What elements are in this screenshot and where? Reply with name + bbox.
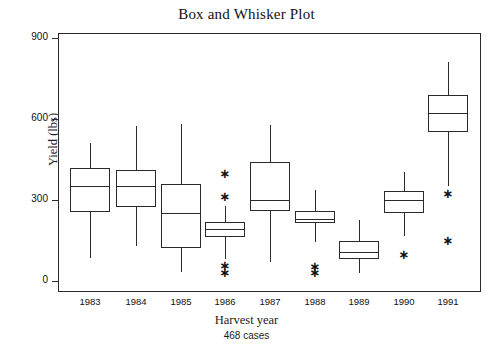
- whisker-lower: [181, 248, 182, 272]
- y-tick-label: 0: [42, 274, 48, 285]
- cases-count-label: 468 cases: [0, 330, 493, 341]
- outlier-marker: ∗: [443, 186, 454, 199]
- outlier-marker: ∗: [310, 266, 321, 279]
- y-tick-mark: [52, 38, 58, 39]
- whisker-lower: [90, 212, 91, 258]
- x-tick-label-1991: 1991: [437, 296, 458, 307]
- x-tick-label-1984: 1984: [125, 296, 146, 307]
- median-line: [70, 186, 110, 187]
- whisker-lower: [359, 259, 360, 273]
- whisker-upper: [315, 190, 316, 211]
- whisker-lower: [225, 237, 226, 259]
- y-tick-mark: [52, 200, 58, 201]
- median-line: [116, 186, 156, 187]
- outlier-marker: ∗: [399, 248, 410, 261]
- box-whisker-chart: Box and Whisker Plot Yield (lbs) 0300600…: [0, 0, 493, 353]
- y-tick-mark: [52, 119, 58, 120]
- whisker-lower: [136, 207, 137, 246]
- x-tick-label-1983: 1983: [79, 296, 100, 307]
- outlier-marker: ∗: [220, 266, 231, 279]
- whisker-lower: [448, 132, 449, 186]
- y-tick-label: 300: [31, 193, 48, 204]
- box-iqr-rect: [384, 191, 424, 213]
- median-line: [339, 252, 379, 253]
- median-line: [428, 113, 468, 114]
- median-line: [250, 200, 290, 201]
- x-tick-label-1989: 1989: [348, 296, 369, 307]
- outlier-marker: ∗: [443, 233, 454, 246]
- whisker-upper: [181, 124, 182, 184]
- box-iqr-rect: [339, 241, 379, 259]
- whisker-upper: [270, 125, 271, 162]
- whisker-upper: [404, 172, 405, 191]
- whisker-lower: [404, 213, 405, 236]
- chart-title: Box and Whisker Plot: [0, 6, 493, 23]
- box-iqr-rect: [70, 168, 110, 212]
- y-tick-mark: [52, 281, 58, 282]
- whisker-upper: [136, 126, 137, 170]
- whisker-upper: [225, 206, 226, 222]
- x-tick-label-1988: 1988: [304, 296, 325, 307]
- whisker-upper: [448, 62, 449, 95]
- box-iqr-rect: [116, 170, 156, 207]
- box-iqr-rect: [295, 211, 335, 223]
- x-tick-label-1990: 1990: [393, 296, 414, 307]
- y-tick-label: 600: [31, 112, 48, 123]
- median-line: [384, 200, 424, 201]
- x-tick-label-1985: 1985: [170, 296, 191, 307]
- y-tick-label: 900: [31, 31, 48, 42]
- x-tick-label-1986: 1986: [214, 296, 235, 307]
- box-iqr-rect: [161, 184, 201, 248]
- whisker-upper: [359, 220, 360, 241]
- median-line: [205, 229, 245, 230]
- x-axis-label: Harvest year: [0, 313, 493, 328]
- median-line: [161, 213, 201, 214]
- outlier-marker: ∗: [220, 167, 231, 180]
- whisker-lower: [315, 223, 316, 242]
- whisker-upper: [90, 143, 91, 168]
- box-iqr-rect: [250, 162, 290, 211]
- outlier-marker: ∗: [220, 189, 231, 202]
- whisker-lower: [270, 211, 271, 262]
- median-line: [295, 219, 335, 220]
- x-tick-label-1987: 1987: [259, 296, 280, 307]
